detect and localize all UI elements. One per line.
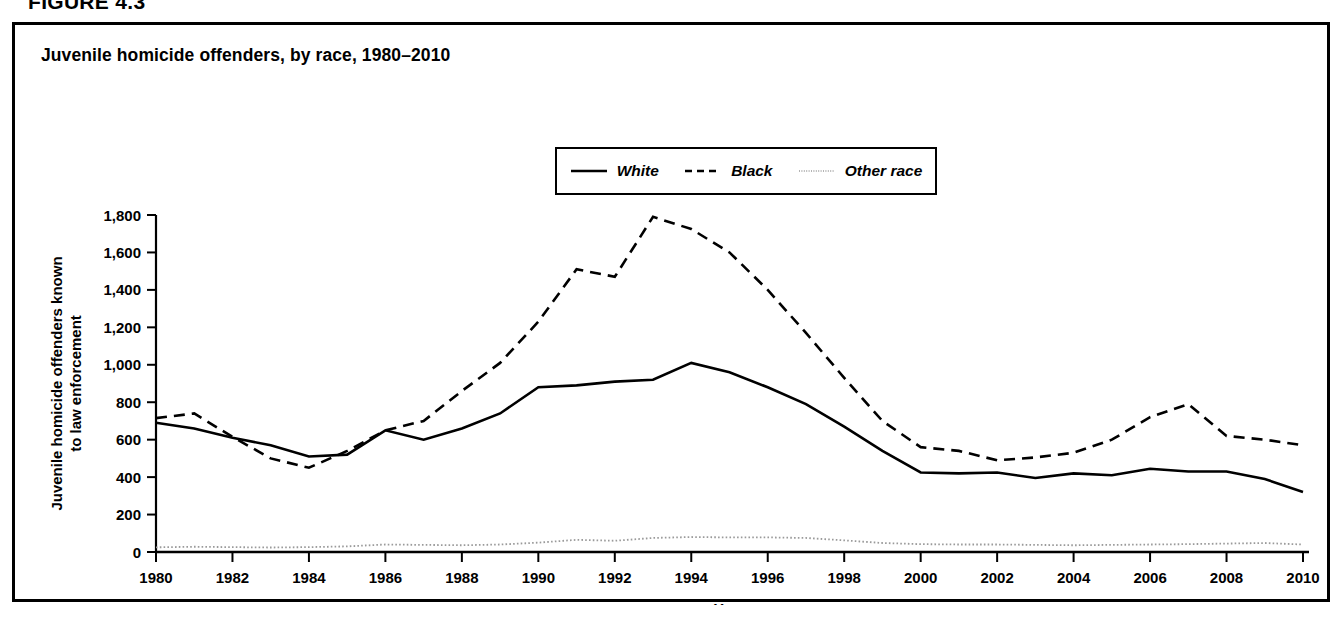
x-axis-tick-label: 2010 [1286, 569, 1319, 586]
chart-legend: White Black Other race [555, 147, 937, 195]
legend-item-black: Black [684, 162, 772, 180]
figure-number: FIGURE 4.3 [28, 0, 145, 14]
legend-label-black: Black [731, 162, 772, 180]
legend-item-other-race: Other race [798, 162, 923, 180]
x-axis-tick-label: 2008 [1210, 569, 1243, 586]
x-axis-tick-label: 1994 [675, 569, 709, 586]
legend-swatch-white-icon [570, 165, 608, 177]
y-axis-tick-label: 400 [116, 469, 141, 486]
x-axis-tick-label: 1992 [598, 569, 631, 586]
legend-label-other-race: Other race [845, 162, 923, 180]
x-axis-tick-label: 1986 [369, 569, 402, 586]
legend-swatch-black-icon [684, 165, 722, 177]
figure-page: FIGURE 4.3 Juvenile homicide offenders, … [0, 0, 1344, 624]
x-axis-tick-label: 2006 [1133, 569, 1166, 586]
y-axis-tick-label: 1,800 [103, 207, 141, 224]
legend-swatch-other-race-icon [798, 165, 836, 177]
x-axis-tick-label: 1998 [828, 569, 861, 586]
x-axis-tick-label: 1980 [139, 569, 172, 586]
x-axis-tick-label: 1982 [216, 569, 249, 586]
y-axis-tick-label: 0 [133, 544, 141, 561]
y-axis-tick-label: 1,600 [103, 244, 141, 261]
legend-label-white: White [617, 162, 659, 180]
y-axis-title-line2: to law enforcement [67, 315, 84, 452]
y-axis-title-line1: Juvenile homicide offenders known [48, 256, 65, 510]
x-axis-tick-label: 1984 [292, 569, 326, 586]
x-axis-tick-label: 2002 [980, 569, 1013, 586]
x-axis-title: Year [714, 600, 746, 605]
chart-panel: Juvenile homicide offenders, by race, 19… [12, 22, 1330, 602]
series-line-other-race [156, 537, 1303, 547]
x-axis-tick-label: 1988 [445, 569, 478, 586]
y-axis-tick-label: 200 [116, 506, 141, 523]
x-axis-tick-label: 1996 [751, 569, 784, 586]
legend-item-white: White [570, 162, 659, 180]
line-chart-svg: 02004006008001,0001,2001,4001,6001,80019… [15, 25, 1333, 605]
y-axis-tick-label: 800 [116, 394, 141, 411]
x-axis-tick-label: 1990 [522, 569, 555, 586]
y-axis-tick-label: 1,400 [103, 281, 141, 298]
y-axis-tick-label: 1,000 [103, 356, 141, 373]
y-axis-tick-label: 1,200 [103, 319, 141, 336]
plot-area: 02004006008001,0001,2001,4001,6001,80019… [15, 25, 1333, 605]
x-axis-tick-label: 2004 [1057, 569, 1091, 586]
series-line-black [156, 217, 1303, 468]
x-axis-tick-label: 2000 [904, 569, 937, 586]
y-axis-tick-label: 600 [116, 431, 141, 448]
